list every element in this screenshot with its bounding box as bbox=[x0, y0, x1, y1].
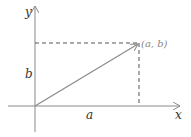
point-label: (a, b) bbox=[141, 38, 168, 49]
horizontal-component-label: a bbox=[86, 108, 93, 122]
vertical-component-label: b bbox=[25, 67, 33, 81]
y-axis-label: y bbox=[24, 5, 32, 19]
vector-arrow bbox=[35, 44, 138, 106]
vector-diagram: y x (a, b) a b bbox=[0, 0, 191, 137]
x-axis-label: x bbox=[175, 108, 182, 122]
